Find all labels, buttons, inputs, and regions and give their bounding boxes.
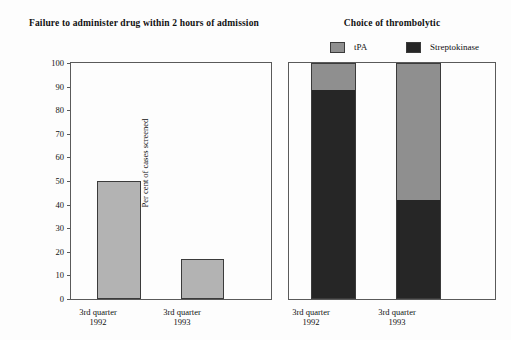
y-tick-mark-100: [67, 63, 71, 64]
y-tick-mark-50: [67, 181, 71, 182]
right-plot-area: [288, 62, 496, 300]
legend-swatch-streptokinase-icon: [406, 42, 421, 53]
y-tick-mark-10: [67, 275, 71, 276]
y-tick-mark-30: [67, 228, 71, 229]
stacked-bar-1992: [311, 63, 356, 299]
y-tick-mark-90: [67, 87, 71, 88]
legend-item-streptokinase: Streptokinase: [406, 40, 479, 54]
right-category-label-1993: 3rd quarter 1993: [365, 307, 429, 327]
y-tick-mark-70: [67, 134, 71, 135]
y-tick-mark-40: [67, 205, 71, 206]
y-tick-mark-80: [67, 110, 71, 111]
legend-swatch-tpa-icon: [330, 42, 345, 53]
segment-streptokinase-1993: [397, 200, 440, 298]
segment-tpa-1992: [312, 64, 355, 90]
legend-item-tpa: tPA: [330, 40, 367, 54]
left-category-label-1992: 3rd quarter 1992: [66, 307, 130, 327]
segment-streptokinase-1992: [312, 90, 355, 298]
y-tick-mark-60: [67, 157, 71, 158]
left-plot-area: Per cent of cases screened 100 90 80 70 …: [70, 62, 272, 300]
y-axis-label: Per cent of cases screened: [140, 73, 150, 253]
right-category-label-1992: 3rd quarter 1992: [279, 307, 343, 327]
legend-label-tpa: tPA: [354, 42, 367, 52]
stacked-bar-1993: [396, 63, 441, 299]
figure-canvas: Failure to administer drug within 2 hour…: [0, 0, 511, 340]
left-chart-title: Failure to administer drug within 2 hour…: [14, 18, 274, 28]
bar-1992-failure: [97, 181, 141, 299]
legend: tPA Streptokinase: [288, 40, 496, 56]
left-category-label-1993: 3rd quarter 1993: [150, 307, 214, 327]
legend-label-streptokinase: Streptokinase: [430, 42, 479, 52]
bar-1993-failure: [181, 259, 224, 299]
y-tick-mark-20: [67, 252, 71, 253]
right-chart-title: Choice of thrombolytic: [288, 18, 496, 28]
segment-tpa-1993: [397, 64, 440, 200]
y-tick-mark-0: [67, 299, 71, 300]
